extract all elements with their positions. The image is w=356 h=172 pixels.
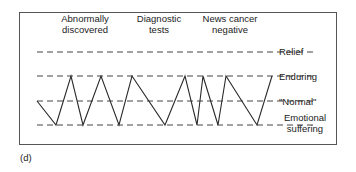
level-label-relief: Relief <box>279 46 303 57</box>
level-label-normal: "Normal" <box>279 96 316 107</box>
event-label-abnormally-discovered: Abnormally discovered <box>52 13 118 35</box>
level-label-enduring: Enduring <box>279 71 317 82</box>
event-label-diagnostic-tests: Diagnostic tests <box>128 13 190 35</box>
event-label-news-cancer-negative: News cancer negative <box>197 13 263 35</box>
level-label-emotional-suffering: Emotional suffering <box>277 112 333 134</box>
level-dashed-lines <box>37 52 313 125</box>
panel-label: (d) <box>20 152 32 163</box>
